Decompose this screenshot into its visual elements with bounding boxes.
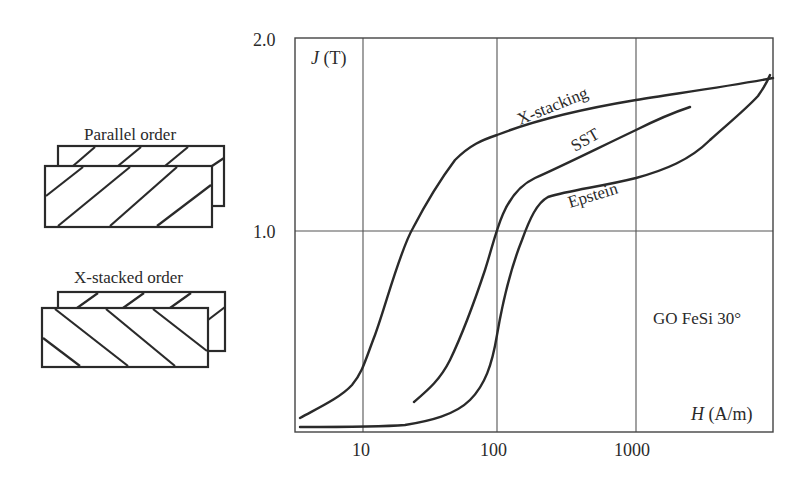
curve-x-stacking <box>300 78 773 418</box>
y-tick-1: 1.0 <box>253 222 276 242</box>
y-axis-label: J (T) <box>311 48 346 69</box>
gridlines <box>295 38 773 432</box>
front-sheet <box>42 308 208 367</box>
front-sheet <box>45 166 212 227</box>
figure-canvas: Parallel order X-stacked order <box>0 0 809 479</box>
xstacked-order-diagram: X-stacked order <box>42 268 225 367</box>
material-annotation: GO FeSi 30° <box>653 309 741 328</box>
parallel-order-title: Parallel order <box>84 125 176 144</box>
xstacked-order-title: X-stacked order <box>74 268 183 287</box>
label-x-stacking: X-stacking <box>514 83 591 129</box>
y-tick-2: 2.0 <box>253 30 276 50</box>
chart: 2.0 1.0 10 100 1000 J (T) H (A/m) GO FeS… <box>253 30 773 460</box>
x-axis-label: H (A/m) <box>690 404 753 425</box>
parallel-order-diagram: Parallel order <box>45 125 224 227</box>
x-tick-10: 10 <box>352 440 370 460</box>
label-epstein: Epstein <box>566 179 621 212</box>
label-sst: SST <box>568 124 603 155</box>
x-tick-1000: 1000 <box>614 440 650 460</box>
curve-epstein <box>300 75 770 427</box>
curve-sst <box>414 107 690 402</box>
x-tick-100: 100 <box>480 440 507 460</box>
plot-frame <box>295 38 773 432</box>
curves <box>300 75 773 427</box>
